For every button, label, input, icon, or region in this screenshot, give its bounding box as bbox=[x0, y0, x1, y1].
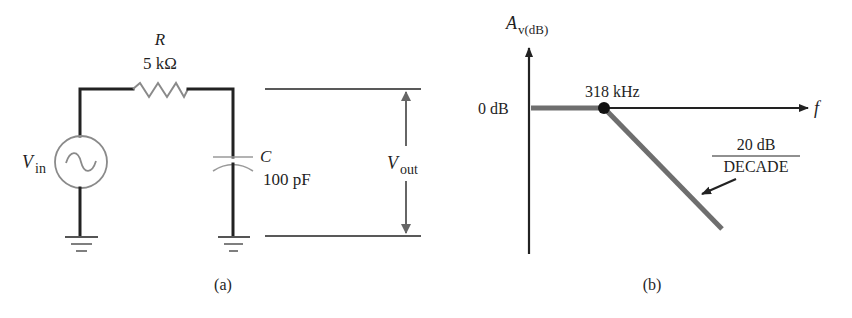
level-label: 0 dB bbox=[478, 100, 509, 117]
figure-canvas: R 5 kΩ C 100 pF V in V out (a) A v(dB) 0… bbox=[0, 0, 852, 318]
vout-subscript: out bbox=[400, 162, 418, 177]
resistor-icon bbox=[133, 83, 188, 97]
slope-numerator: 20 dB bbox=[737, 136, 776, 153]
ac-source-icon bbox=[55, 136, 107, 188]
vout-symbol: V bbox=[387, 153, 400, 173]
x-axis-symbol: f bbox=[814, 98, 822, 118]
wire-left-top bbox=[80, 89, 133, 136]
breakpoint-label: 318 kHz bbox=[585, 83, 640, 100]
capacitor-symbol: C bbox=[260, 147, 272, 166]
y-axis-symbol: A bbox=[505, 13, 518, 33]
caption-b: (b) bbox=[643, 276, 662, 294]
wire-right-top bbox=[188, 89, 233, 157]
response-rolloff bbox=[604, 108, 722, 229]
slope-denominator: DECADE bbox=[724, 158, 789, 175]
slope-arrow-icon bbox=[702, 179, 736, 194]
rc-circuit: R 5 kΩ C 100 pF V in V out (a) bbox=[22, 30, 421, 294]
vin-subscript: in bbox=[35, 161, 46, 176]
resistor-symbol: R bbox=[154, 30, 166, 49]
ground-icon bbox=[218, 237, 250, 251]
resistor-value: 5 kΩ bbox=[143, 54, 177, 73]
breakpoint-dot bbox=[598, 102, 610, 114]
bode-plot: A v(dB) 0 dB 318 kHz f 20 dB DECADE (b) bbox=[478, 13, 822, 294]
ground-icon bbox=[65, 237, 98, 251]
caption-a: (a) bbox=[214, 276, 232, 294]
vin-symbol: V bbox=[22, 152, 35, 172]
y-axis-subscript: v(dB) bbox=[518, 22, 548, 37]
capacitor-value: 100 pF bbox=[263, 170, 311, 189]
